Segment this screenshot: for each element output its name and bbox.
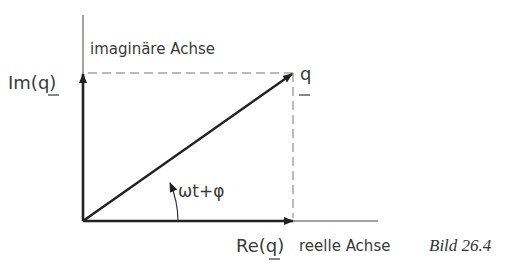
svg-text:q: q bbox=[300, 63, 311, 84]
real-axis-label: reelle Achse bbox=[299, 237, 390, 255]
angle-arc bbox=[170, 183, 178, 221]
phasor-diagram: imaginäre Achse Im(q) q ωt+φ Re(q) reell… bbox=[0, 0, 505, 270]
im-q-label: Im(q) bbox=[8, 72, 59, 95]
figure-caption: Bild 26.4 bbox=[429, 236, 492, 255]
phasor-label: q bbox=[299, 63, 311, 95]
svg-text:Re(q): Re(q) bbox=[236, 235, 284, 256]
angle-label: ωt+φ bbox=[178, 181, 224, 201]
imaginary-axis-label: imaginäre Achse bbox=[90, 40, 215, 58]
re-q-label: Re(q) bbox=[236, 235, 284, 259]
svg-text:Im(q): Im(q) bbox=[8, 72, 56, 93]
